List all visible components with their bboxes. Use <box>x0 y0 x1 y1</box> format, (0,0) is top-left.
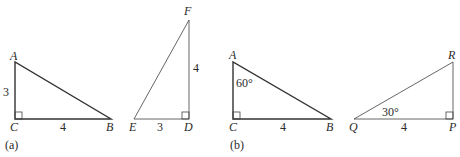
right-angle-marker-c-b <box>233 112 240 119</box>
right-angle-marker-p <box>446 112 453 119</box>
panel-caption-a: (a) <box>5 138 18 152</box>
vertex-label-b: B <box>106 120 114 134</box>
side-label-qp: 4 <box>401 120 407 134</box>
vertex-label-b-b: B <box>326 120 334 134</box>
triangle-edf: F E D 3 4 <box>128 4 199 134</box>
vertex-label-p: P <box>448 120 457 134</box>
vertex-label-a-b: A <box>228 48 237 62</box>
angle-label-a: 60° <box>236 76 253 90</box>
angle-label-q: 30° <box>382 105 399 119</box>
triangle-abc-b-shape <box>233 62 331 119</box>
side-label-df: 4 <box>193 61 199 75</box>
right-angle-marker-d <box>182 112 189 119</box>
panel-caption-b: (b) <box>230 138 244 152</box>
vertex-label-a: A <box>9 49 18 63</box>
triangle-qpr-shape <box>354 62 453 119</box>
vertex-label-f: F <box>183 4 192 18</box>
diagram-canvas: A C B 3 4 F E D 3 4 (a) A C B 60° 4 R Q … <box>0 0 460 157</box>
triangle-abc-b: A C B 60° 4 <box>228 48 334 134</box>
vertex-label-c: C <box>10 120 19 134</box>
vertex-label-r: R <box>447 48 456 62</box>
vertex-label-c-b: C <box>229 120 238 134</box>
triangle-qpr: R Q P 30° 4 <box>349 48 457 134</box>
vertex-label-q: Q <box>349 120 358 134</box>
side-label-cb-b: 4 <box>280 120 286 134</box>
side-label-ed: 3 <box>157 120 163 134</box>
side-label-cb: 4 <box>60 120 66 134</box>
side-label-ac: 3 <box>3 85 9 99</box>
vertex-label-d: D <box>183 120 193 134</box>
triangle-abc-shape <box>15 62 111 119</box>
triangle-abc-a: A C B 3 4 <box>3 49 114 134</box>
right-angle-marker-c <box>15 112 22 119</box>
triangle-edf-shape <box>134 20 189 119</box>
vertex-label-e: E <box>128 120 137 134</box>
